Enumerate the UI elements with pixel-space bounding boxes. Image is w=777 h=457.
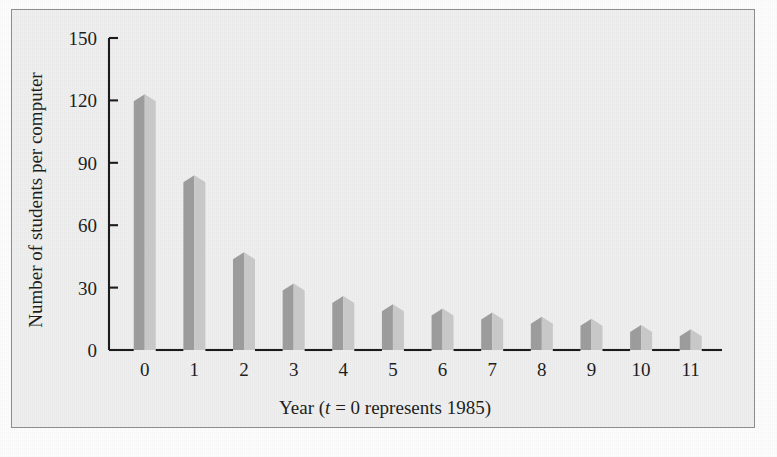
bar-face-right bbox=[294, 283, 305, 350]
x-axis-title-before: Year ( bbox=[279, 397, 325, 419]
bar-face-left bbox=[183, 175, 194, 350]
y-tick-label: 90 bbox=[78, 153, 97, 174]
x-tick-label: 2 bbox=[239, 359, 249, 380]
y-tick-label: 150 bbox=[69, 28, 98, 49]
x-tick-label: 9 bbox=[587, 359, 597, 380]
bar-face-right bbox=[343, 296, 354, 350]
bar-face-left bbox=[680, 329, 691, 350]
y-tick-label: 0 bbox=[88, 340, 98, 361]
y-tick-label: 30 bbox=[78, 278, 97, 299]
bar-face-right bbox=[542, 317, 553, 350]
x-tick-label: 10 bbox=[632, 359, 651, 380]
x-tick-labels: 01234567891011 bbox=[140, 359, 700, 380]
bar-face-left bbox=[134, 94, 145, 350]
bars-group bbox=[134, 94, 702, 350]
x-tick-label: 5 bbox=[388, 359, 398, 380]
bar-face-right bbox=[145, 94, 156, 350]
bar-face-left bbox=[580, 319, 591, 350]
x-tick-label: 7 bbox=[487, 359, 497, 380]
x-axis-title: Year (t = 0 represents 1985) bbox=[279, 397, 491, 419]
bar-face-left bbox=[283, 283, 294, 350]
bar-face-right bbox=[393, 304, 404, 350]
bar-face-left bbox=[432, 308, 443, 350]
bar-face-right bbox=[691, 329, 702, 350]
x-tick-label: 0 bbox=[140, 359, 150, 380]
x-tick-label: 3 bbox=[289, 359, 299, 380]
bar-face-left bbox=[382, 304, 393, 350]
x-tick-label: 8 bbox=[537, 359, 547, 380]
bar-face-right bbox=[641, 325, 652, 350]
bar-face-left bbox=[531, 317, 542, 350]
x-axis-title-after: = 0 represents 1985) bbox=[330, 397, 491, 419]
y-axis-title: Number of students per computer bbox=[25, 72, 46, 328]
chart-screenshot: 0306090120150 01234567891011 Number of s… bbox=[0, 0, 777, 457]
bar-face-right bbox=[591, 319, 602, 350]
x-tick-label: 6 bbox=[438, 359, 448, 380]
bar-face-right bbox=[443, 308, 454, 350]
bar-face-left bbox=[233, 252, 244, 350]
x-tick-label: 4 bbox=[339, 359, 349, 380]
y-tick-label: 60 bbox=[78, 215, 97, 236]
bar-face-left bbox=[630, 325, 641, 350]
bar-face-right bbox=[244, 252, 255, 350]
y-tick-labels: 0306090120150 bbox=[69, 28, 98, 361]
bar-face-left bbox=[481, 313, 492, 350]
bar-face-left bbox=[332, 296, 343, 350]
x-tick-label: 1 bbox=[190, 359, 200, 380]
bar-face-right bbox=[492, 313, 503, 350]
y-tick-label: 120 bbox=[69, 90, 98, 111]
x-tick-label: 11 bbox=[682, 359, 700, 380]
bar-chart-plot: 0306090120150 01234567891011 Number of s… bbox=[0, 0, 777, 457]
bar-face-right bbox=[194, 175, 205, 350]
